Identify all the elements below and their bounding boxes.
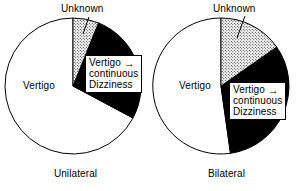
callout-line-1: Vertigo → xyxy=(89,57,138,68)
pie-chart-figure: Unknown Vertigo Vertigo → continuous Diz… xyxy=(0,0,302,191)
callout-text-continuous: continuous xyxy=(233,95,282,106)
panel-caption-unilateral: Unilateral xyxy=(0,168,151,179)
pie-label-unknown: Unknown xyxy=(61,3,103,14)
chart-panel-bilateral: Unknown Vertigo Vertigo → continuous Diz… xyxy=(151,0,302,191)
pie-callout-box: Vertigo → continuous Dizziness xyxy=(229,82,286,120)
callout-text-dizziness: Dizziness xyxy=(233,106,282,117)
pie-label-unknown: Unknown xyxy=(213,3,255,14)
chart-panel-unilateral: Unknown Vertigo Vertigo → continuous Diz… xyxy=(0,0,151,191)
pie-label-vertigo: Vertigo xyxy=(179,80,211,91)
callout-line-1: Vertigo → xyxy=(233,84,282,95)
pie-chart-unilateral xyxy=(0,0,151,191)
callout-text-continuous: continuous xyxy=(89,68,138,79)
panel-caption-bilateral: Bilateral xyxy=(151,168,302,179)
arrow-right-icon: → xyxy=(268,85,279,95)
pie-label-vertigo: Vertigo xyxy=(23,80,55,91)
pie-callout-box: Vertigo → continuous Dizziness xyxy=(85,55,142,93)
callout-text-vertigo: Vertigo xyxy=(233,84,265,95)
callout-text-vertigo: Vertigo xyxy=(89,57,121,68)
arrow-right-icon: → xyxy=(124,58,135,68)
callout-text-dizziness: Dizziness xyxy=(89,79,138,90)
